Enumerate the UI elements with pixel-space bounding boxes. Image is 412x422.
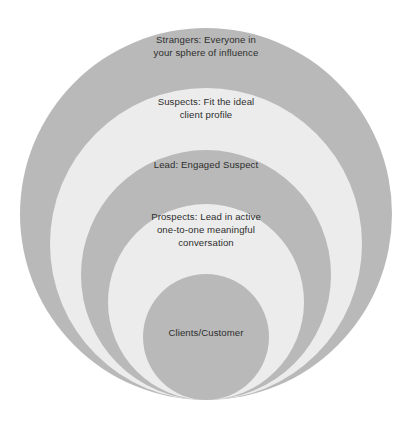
concentric-circles-graphic xyxy=(0,0,412,422)
funnel-diagram: Strangers: Everyone in your sphere of in… xyxy=(0,0,412,422)
ring-circle-clients xyxy=(143,274,269,400)
